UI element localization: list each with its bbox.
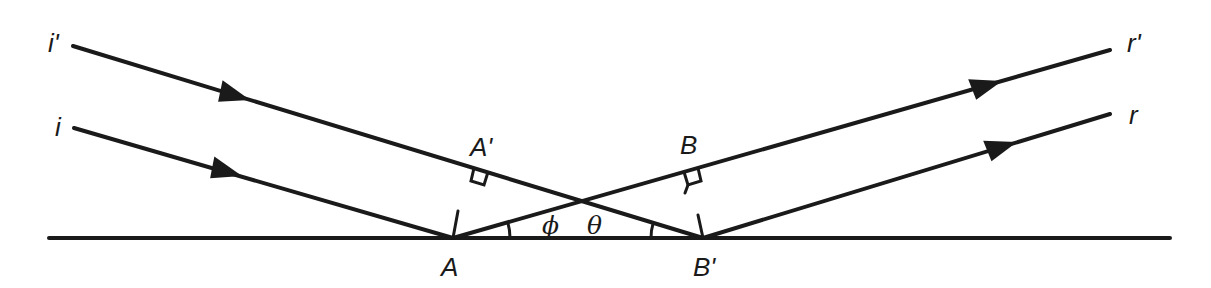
angle-arc-theta (651, 223, 653, 238)
normal-tick-b-prime (698, 215, 703, 238)
label-phi: ϕ (542, 211, 559, 240)
label-b: B (680, 130, 697, 160)
label-theta: θ (587, 211, 602, 240)
normal-tick-a (453, 211, 458, 238)
reflected-ray-r (703, 114, 1110, 238)
arrow-icon-r-prime (968, 70, 1005, 100)
arrow-icon-i (208, 157, 245, 187)
incident-ray-i-prime (73, 46, 703, 238)
label-r: r (1129, 100, 1139, 130)
arrow-icon-i-prime (216, 80, 253, 110)
label-b-prime: B' (693, 252, 716, 282)
label-i-prime: i' (48, 28, 60, 58)
label-a: A (439, 252, 458, 282)
arrow-icon-r (983, 131, 1020, 161)
label-a-prime: A' (468, 132, 493, 162)
reflection-diagram: i' i r' r A' B A B' ϕ θ (0, 0, 1211, 288)
angle-arc-phi (508, 222, 510, 238)
right-angle-marker-b-leg (685, 185, 688, 193)
label-i: i (55, 112, 62, 142)
label-r-prime: r' (1127, 28, 1142, 58)
